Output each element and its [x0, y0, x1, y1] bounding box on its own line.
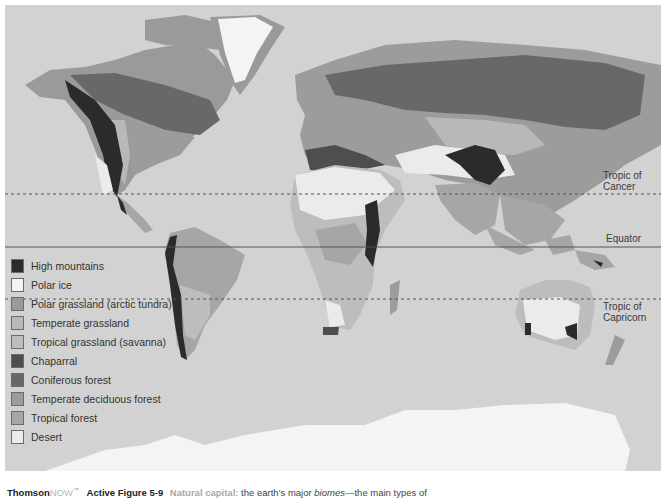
caption-italic-term: biomes — [314, 487, 345, 498]
tropic-of-capricorn-label-line1: Tropic of — [603, 301, 646, 312]
caption-text-continued: —the main types of — [345, 487, 427, 498]
swatch-desert — [11, 430, 24, 444]
africa — [290, 165, 405, 335]
biome-legend: High mountains Polar ice Polar grassland… — [5, 252, 217, 452]
legend-label: High mountains — [31, 260, 104, 272]
caption-highlight: Natural capital: — [170, 487, 239, 498]
legend-label: Temperate grassland — [31, 317, 129, 329]
legend-label: Tropical grassland (savanna) — [31, 336, 166, 348]
caption-text: the earth’s major — [238, 487, 314, 498]
tropic-of-capricorn-label: Tropic of Capricorn — [603, 301, 646, 323]
legend-item-temperate-grassland: Temperate grassland — [11, 315, 129, 331]
swatch-tropical-grassland — [11, 335, 24, 349]
legend-item-chaparral: Chaparral — [11, 353, 77, 369]
swatch-temperate-deciduous-forest — [11, 392, 24, 406]
swatch-temperate-grassland — [11, 316, 24, 330]
legend-item-high-mountains: High mountains — [11, 258, 104, 274]
north-america — [25, 15, 235, 233]
equator-label: Equator — [606, 233, 641, 244]
tropic-of-cancer-label-line2: Cancer — [603, 181, 642, 192]
swatch-polar-ice — [11, 278, 24, 292]
equator-label-text: Equator — [606, 233, 641, 244]
legend-item-coniferous-forest: Coniferous forest — [11, 372, 111, 388]
legend-item-tropical-forest: Tropical forest — [11, 410, 97, 426]
swatch-tropical-forest — [11, 411, 24, 425]
brand-name-thomson: Thomson — [7, 487, 50, 498]
legend-label: Coniferous forest — [31, 374, 111, 386]
tropic-of-cancer-label: Tropic of Cancer — [603, 170, 642, 192]
legend-item-desert: Desert — [11, 429, 62, 445]
figure-caption: ThomsonNOW™ Active Figure 5-9 Natural ca… — [7, 487, 427, 498]
legend-label: Tropical forest — [31, 412, 97, 424]
legend-label: Polar grassland (arctic tundra) — [31, 298, 172, 310]
trademark-mark: ™ — [73, 487, 79, 493]
swatch-coniferous-forest — [11, 373, 24, 387]
legend-item-polar-ice: Polar ice — [11, 277, 72, 293]
legend-label: Polar ice — [31, 279, 72, 291]
legend-label: Chaparral — [31, 355, 77, 367]
swatch-chaparral — [11, 354, 24, 368]
tropic-of-cancer-label-line1: Tropic of — [603, 170, 642, 181]
legend-item-polar-grassland: Polar grassland (arctic tundra) — [11, 296, 172, 312]
swatch-high-mountains — [11, 259, 24, 273]
legend-item-tropical-grassland: Tropical grassland (savanna) — [11, 334, 166, 350]
swatch-polar-grassland — [11, 297, 24, 311]
legend-label: Desert — [31, 431, 62, 443]
legend-label: Temperate deciduous forest — [31, 393, 161, 405]
tropic-of-capricorn-label-line2: Capricorn — [603, 312, 646, 323]
brand-name-now: NOW — [50, 487, 73, 498]
legend-item-temperate-deciduous-forest: Temperate deciduous forest — [11, 391, 161, 407]
figure-label: Active Figure 5-9 — [87, 487, 164, 498]
